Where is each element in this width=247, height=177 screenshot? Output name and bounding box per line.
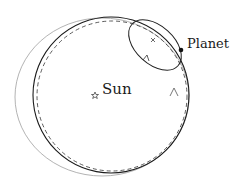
sun-label: Sun (102, 80, 132, 98)
deferent-direction-arrow-icon (170, 88, 178, 96)
planet-dot-icon (179, 48, 184, 53)
sun-star-icon (92, 92, 99, 99)
epicycle-ellipse (119, 10, 191, 80)
epicycle-center-marker-icon (151, 38, 155, 42)
orbit-diagram: Sun Planet (0, 0, 247, 177)
planet-label: Planet (187, 36, 230, 51)
